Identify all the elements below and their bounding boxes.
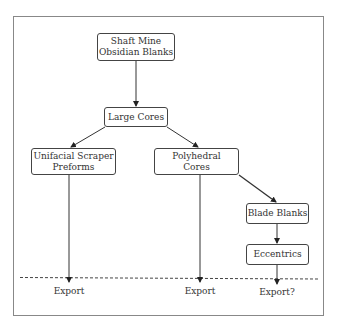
node-polyhedral-cores: Polyhedral Cores (154, 148, 239, 175)
node-shaft-mine-obsidian-blanks: Shaft Mine Obsidian Blanks (97, 33, 175, 61)
output-export-unifacial: Export (54, 286, 85, 296)
output-export-eccentrics: Export? (259, 287, 295, 297)
diagram-canvas: Shaft Mine Obsidian Blanks Large Cores U… (0, 0, 338, 331)
node-eccentrics: Eccentrics (246, 244, 309, 265)
node-large-cores: Large Cores (104, 107, 168, 127)
edge-polyhedral-blade (239, 175, 276, 202)
export-boundary-dashed-line (20, 278, 318, 280)
edge-large-polyhedral (167, 127, 198, 147)
output-export-polyhedral: Export (185, 286, 216, 296)
edge-large-unifacial (71, 127, 105, 147)
node-unifacial-scraper-preforms: Unifacial Scraper Preforms (31, 148, 116, 175)
node-blade-blanks: Blade Blanks (246, 203, 309, 224)
